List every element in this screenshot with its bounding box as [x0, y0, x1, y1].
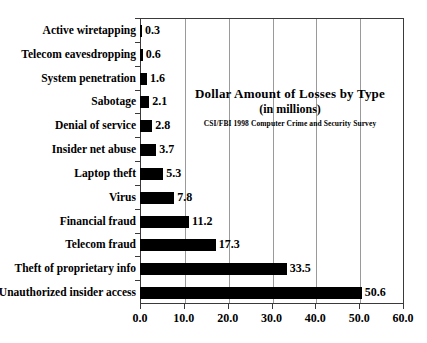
bar-row: 50.6 — [140, 287, 404, 299]
bar-chart-figure: Dollar Amount of Losses by Type (in mill… — [0, 0, 427, 343]
y-axis-tick — [135, 256, 140, 257]
category-label: Denial of service — [0, 119, 136, 132]
bar-row: 17.3 — [140, 239, 404, 251]
category-label: Unauthorized insider access — [0, 286, 136, 299]
x-axis-tick — [272, 304, 273, 309]
y-axis-tick — [135, 280, 140, 281]
category-label: Theft of proprietary info — [0, 262, 136, 275]
bar — [140, 144, 156, 156]
x-axis-tick — [228, 304, 229, 309]
category-label: Active wiretapping — [0, 24, 136, 37]
x-axis-tick — [184, 304, 185, 309]
gridline — [360, 19, 361, 303]
gridline — [316, 19, 317, 303]
plot-area — [140, 18, 404, 304]
bar-value-label: 17.3 — [219, 237, 240, 252]
category-label: Sabotage — [0, 95, 136, 108]
y-axis-tick — [135, 90, 140, 91]
x-axis-tick — [403, 304, 404, 309]
bar-value-label: 1.6 — [150, 71, 165, 86]
bar-value-label: 3.7 — [159, 142, 174, 157]
category-label: System penetration — [0, 72, 136, 85]
bar-value-label: 0.3 — [145, 23, 160, 38]
gridline — [185, 19, 186, 303]
bar-value-label: 50.6 — [365, 285, 386, 300]
y-axis-tick — [135, 113, 140, 114]
bar-row: 3.7 — [140, 144, 404, 156]
category-label: Financial fraud — [0, 215, 136, 228]
x-axis-tick-label: 60.0 — [373, 311, 427, 325]
bar — [140, 96, 149, 108]
bar — [140, 263, 287, 275]
gridline — [273, 19, 274, 303]
bar — [140, 49, 143, 61]
bar — [140, 120, 152, 132]
bar-row: 2.8 — [140, 120, 404, 132]
bar — [140, 192, 174, 204]
bar — [140, 287, 362, 299]
bar-row: 0.3 — [140, 25, 404, 37]
bar-row: 33.5 — [140, 263, 404, 275]
bar — [140, 25, 142, 37]
y-axis-tick — [135, 161, 140, 162]
bar-value-label: 7.8 — [177, 190, 192, 205]
y-axis-tick — [135, 66, 140, 67]
bar-row: 1.6 — [140, 73, 404, 85]
bar-row: 2.1 — [140, 96, 404, 108]
x-axis-tick — [315, 304, 316, 309]
bar-row: 5.3 — [140, 168, 404, 180]
x-axis-tick — [140, 304, 141, 309]
y-axis-tick — [135, 185, 140, 186]
bar-row: 7.8 — [140, 192, 404, 204]
bar-row: 11.2 — [140, 216, 404, 228]
y-axis-tick — [135, 209, 140, 210]
category-label: Telecom fraud — [0, 238, 136, 251]
y-axis-tick — [135, 18, 140, 19]
category-label: Telecom eavesdropping — [0, 48, 136, 61]
bar — [140, 168, 163, 180]
y-axis-tick — [135, 233, 140, 234]
bar-value-label: 2.8 — [155, 118, 170, 133]
y-axis-tick — [135, 137, 140, 138]
gridline — [229, 19, 230, 303]
y-axis-tick — [135, 42, 140, 43]
category-label: Laptop theft — [0, 167, 136, 180]
bar — [140, 216, 189, 228]
bar — [140, 73, 147, 85]
bar-value-label: 11.2 — [192, 214, 212, 229]
category-label: Insider net abuse — [0, 143, 136, 156]
category-label: Virus — [0, 191, 136, 204]
bar — [140, 239, 216, 251]
bar-value-label: 2.1 — [152, 94, 167, 109]
bar-value-label: 33.5 — [290, 261, 311, 276]
bar-value-label: 0.6 — [146, 47, 161, 62]
x-axis-tick — [359, 304, 360, 309]
bar-value-label: 5.3 — [166, 166, 181, 181]
bar-row: 0.6 — [140, 49, 404, 61]
